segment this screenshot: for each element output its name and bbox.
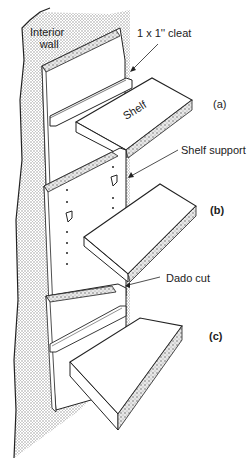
- interior-wall-label: Interior wall: [30, 26, 64, 50]
- interior-wall-label-line1: Interior: [30, 26, 64, 38]
- variant-b-label: (b): [210, 204, 224, 216]
- variant-c-label: (c): [209, 330, 222, 342]
- shelf-support-leader: [131, 150, 178, 176]
- dado-cut-label: Dado cut: [166, 272, 210, 284]
- shelf-support-label: Shelf support: [181, 144, 246, 156]
- shelving-diagram: [0, 0, 252, 468]
- interior-wall-label-line2: wall: [34, 38, 64, 50]
- variant-a-label: (a): [213, 98, 226, 110]
- cleat-label: 1 x 1'' cleat: [137, 27, 191, 39]
- cleat-leader: [132, 44, 158, 70]
